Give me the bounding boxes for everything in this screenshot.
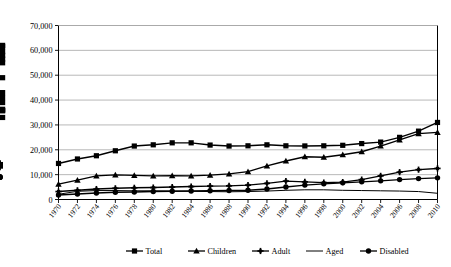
data-point-marker bbox=[0, 107, 5, 112]
y-axis-tick-label: 20,000 bbox=[30, 146, 53, 155]
x-axis-tick-label: 2004 bbox=[369, 202, 386, 220]
legend-item-adult: Adult bbox=[252, 247, 291, 256]
data-point-marker bbox=[0, 90, 5, 95]
y-axis-tick-label: 50,000 bbox=[30, 71, 53, 80]
line-chart: 010,00020,00030,00040,00050,00060,00070,… bbox=[0, 0, 451, 267]
chart-legend: TotalChildrenAdultAgedDisabled bbox=[126, 247, 409, 256]
x-axis-tick-label: 1994 bbox=[274, 202, 291, 220]
chart-figure: 010,00020,00030,00040,00050,00060,00070,… bbox=[0, 0, 451, 267]
legend-label: Children bbox=[208, 247, 237, 256]
x-axis-tick-label: 1990 bbox=[236, 202, 253, 220]
legend-item-children: Children bbox=[188, 247, 236, 256]
data-point-marker bbox=[0, 49, 5, 54]
x-axis-tick-label: 1980 bbox=[142, 202, 159, 220]
data-point-marker bbox=[264, 180, 270, 186]
x-axis-tick-label: 1970 bbox=[47, 202, 64, 220]
data-point-marker bbox=[283, 184, 288, 189]
x-axis-ticks: 1970197219741976197819801982198419861988… bbox=[47, 200, 443, 220]
data-point-marker bbox=[321, 143, 326, 148]
data-point-marker bbox=[378, 173, 384, 179]
x-axis-tick-label: 1992 bbox=[255, 202, 272, 220]
y-axis-tick-label: 70,000 bbox=[30, 22, 53, 31]
data-point-marker bbox=[0, 75, 5, 80]
data-point-marker bbox=[113, 190, 118, 195]
x-axis-tick-label: 1986 bbox=[198, 202, 215, 220]
data-point-marker bbox=[257, 248, 263, 254]
data-point-marker bbox=[283, 178, 289, 184]
data-point-marker bbox=[94, 153, 99, 158]
data-point-marker bbox=[188, 188, 193, 193]
x-axis-tick-label: 1982 bbox=[161, 202, 178, 220]
data-point-marker bbox=[132, 189, 137, 194]
data-point-marker bbox=[359, 179, 364, 184]
y-axis-tick-label: 30,000 bbox=[30, 121, 53, 130]
series-adult bbox=[0, 160, 441, 194]
data-point-marker bbox=[359, 141, 364, 146]
data-point-marker bbox=[264, 186, 269, 191]
y-axis-tick-label: 0 bbox=[48, 196, 52, 205]
x-axis-tick-label: 1974 bbox=[85, 202, 102, 220]
data-point-marker bbox=[415, 167, 421, 173]
legend-item-aged: Aged bbox=[306, 247, 343, 256]
data-point-marker bbox=[132, 248, 137, 253]
data-point-marker bbox=[435, 120, 440, 125]
y-axis-tick-label: 10,000 bbox=[30, 171, 53, 180]
data-point-marker bbox=[245, 182, 251, 188]
data-point-marker bbox=[226, 188, 231, 193]
data-point-marker bbox=[366, 248, 371, 253]
data-point-marker bbox=[226, 143, 231, 148]
x-axis-tick-label: 1976 bbox=[104, 202, 121, 220]
x-axis-tick-label: 2008 bbox=[407, 202, 424, 220]
data-point-marker bbox=[94, 190, 99, 195]
data-point-marker bbox=[283, 143, 288, 148]
legend-label: Aged bbox=[326, 247, 344, 256]
data-point-marker bbox=[435, 175, 440, 180]
x-axis-tick-label: 1998 bbox=[312, 202, 329, 220]
x-axis-tick-label: 1984 bbox=[179, 202, 196, 220]
data-point-marker bbox=[207, 188, 212, 193]
x-axis-tick-label: 2010 bbox=[426, 202, 443, 220]
x-axis-tick-label: 1972 bbox=[66, 202, 83, 220]
data-point-marker bbox=[245, 143, 250, 148]
x-axis-tick-label: 1978 bbox=[123, 202, 140, 220]
data-point-marker bbox=[75, 191, 80, 196]
data-point-marker bbox=[56, 192, 61, 197]
data-point-marker bbox=[0, 43, 5, 48]
data-point-marker bbox=[151, 189, 156, 194]
x-axis-tick-label: 2002 bbox=[350, 202, 367, 220]
data-point-marker bbox=[302, 182, 307, 187]
data-point-marker bbox=[0, 95, 5, 100]
data-point-marker bbox=[0, 115, 5, 120]
data-point-marker bbox=[75, 156, 80, 161]
data-point-marker bbox=[151, 142, 156, 147]
x-axis-tick-label: 1988 bbox=[217, 202, 234, 220]
data-point-marker bbox=[170, 189, 175, 194]
data-point-marker bbox=[132, 143, 137, 148]
series-children bbox=[55, 129, 440, 186]
data-point-marker bbox=[416, 176, 421, 181]
data-point-marker bbox=[245, 188, 250, 193]
legend-item-disabled: Disabled bbox=[360, 247, 409, 256]
x-axis-tick-label: 1996 bbox=[293, 202, 310, 220]
data-point-marker bbox=[340, 180, 345, 185]
data-point-marker bbox=[113, 148, 118, 153]
data-point-marker bbox=[189, 140, 194, 145]
x-axis-tick-label: 2006 bbox=[388, 202, 405, 220]
data-point-marker bbox=[397, 177, 402, 182]
data-point-marker bbox=[340, 143, 345, 148]
data-point-marker bbox=[170, 140, 175, 145]
data-point-marker bbox=[302, 143, 307, 148]
legend-item-total: Total bbox=[126, 247, 163, 256]
data-point-marker bbox=[434, 165, 440, 171]
data-point-marker bbox=[321, 181, 326, 186]
data-point-marker bbox=[0, 100, 5, 105]
legend-label: Disabled bbox=[380, 247, 409, 256]
x-axis-tick-label: 2000 bbox=[331, 202, 348, 220]
data-point-marker bbox=[56, 161, 61, 166]
legend-label: Total bbox=[146, 247, 163, 256]
data-point-marker bbox=[264, 142, 269, 147]
data-point-marker bbox=[378, 178, 383, 183]
y-axis-tick-label: 60,000 bbox=[30, 46, 53, 55]
legend-label: Adult bbox=[272, 247, 291, 256]
data-point-marker bbox=[208, 142, 213, 147]
